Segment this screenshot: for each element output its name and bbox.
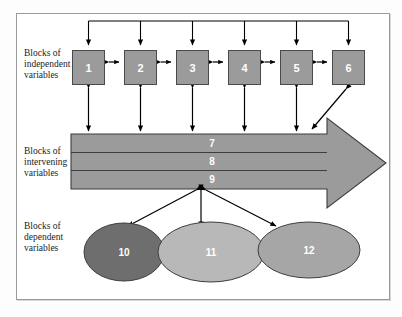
band-label-8: 8 xyxy=(205,156,219,167)
intervening-arrow-shape xyxy=(71,118,386,208)
block-box-4[interactable]: 4 xyxy=(228,50,261,85)
block-box-2[interactable]: 2 xyxy=(124,50,157,85)
ellipse-label-12: 12 xyxy=(300,245,318,256)
box-to-intervening-connectors xyxy=(89,88,297,131)
band-label-7: 7 xyxy=(205,138,219,149)
row-label-intervening: Blocks of intervening variables xyxy=(24,146,88,179)
diagram-canvas: Blocks of independent variables Blocks o… xyxy=(0,0,402,317)
block-box-6[interactable]: 6 xyxy=(332,50,365,85)
block-box-1[interactable]: 1 xyxy=(72,50,105,85)
ellipse-label-11: 11 xyxy=(202,247,220,258)
block-box-5[interactable]: 5 xyxy=(280,50,313,85)
band-label-9: 9 xyxy=(205,174,219,185)
row-label-dependent: Blocks of dependent variables xyxy=(24,221,88,254)
top-bus-lines xyxy=(89,21,349,45)
intervening-to-dependent-connectors xyxy=(128,190,276,227)
block-box-3[interactable]: 3 xyxy=(176,50,209,85)
ellipse-label-10: 10 xyxy=(115,247,133,258)
